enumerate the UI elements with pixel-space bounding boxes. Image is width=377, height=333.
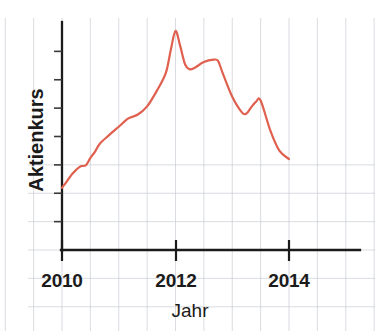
x-tick-label-2014: 2014 [268,270,310,291]
line-chart-figure: 2010 2012 2014 Jahr Aktienkurs [0,0,377,333]
x-tick-label-2012: 2012 [155,270,196,291]
chart-canvas: 2010 2012 2014 Jahr Aktienkurs [0,0,377,333]
x-tick-label-2010: 2010 [41,270,82,291]
y-axis-title: Aktienkurs [25,88,47,191]
x-axis-title: Jahr [172,300,210,321]
